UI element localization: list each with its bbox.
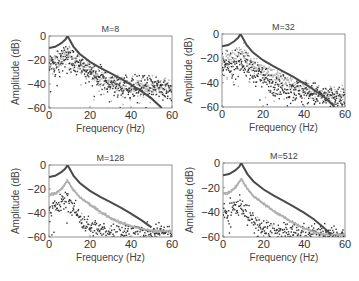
y-tick-label: −20 xyxy=(201,182,220,194)
y-tick-label: 0 xyxy=(40,159,46,171)
axes-box xyxy=(49,165,172,237)
y-axis-label: Amplitude (dB) xyxy=(184,167,195,233)
subplot-title: M=8 xyxy=(102,24,120,34)
x-tick-label: 0 xyxy=(220,238,226,250)
x-tick-label: 0 xyxy=(46,238,52,250)
y-tick-label: −20 xyxy=(27,183,46,195)
y-tick-label: −40 xyxy=(201,206,220,218)
x-tick-label: 60 xyxy=(339,108,351,120)
x-tick-label: 40 xyxy=(125,238,137,250)
x-tick-label: 20 xyxy=(257,108,269,120)
subplot-panel: 02040600−20−40−60M=128Frequency (Hz)Ampl… xyxy=(10,153,178,263)
x-tick-label: 40 xyxy=(125,109,137,121)
subplot-title: M=128 xyxy=(97,153,125,163)
x-tick-label: 20 xyxy=(84,238,96,250)
x-tick-label: 60 xyxy=(166,109,178,121)
subplot-panel: 02040600−20−40−60M=8Frequency (Hz)Amplit… xyxy=(10,24,178,134)
y-tick-label: −40 xyxy=(27,207,46,219)
y-tick-label: 0 xyxy=(214,157,220,169)
y-tick-label: −60 xyxy=(27,231,46,243)
x-axis-label: Frequency (Hz) xyxy=(249,122,318,133)
y-axis-label: Amplitude (dB) xyxy=(183,37,194,103)
x-tick-label: 60 xyxy=(166,238,178,250)
subplot-title: M=512 xyxy=(270,151,298,161)
y-tick-label: 0 xyxy=(40,30,46,42)
y-tick-label: −60 xyxy=(27,102,46,114)
x-tick-label: 40 xyxy=(298,108,310,120)
y-tick-label: −20 xyxy=(200,52,219,64)
x-tick-label: 20 xyxy=(84,109,96,121)
x-axis-label: Frequency (Hz) xyxy=(250,252,319,263)
y-tick-label: −40 xyxy=(27,78,46,90)
y-tick-label: 0 xyxy=(213,28,219,40)
y-tick-label: −40 xyxy=(200,77,219,89)
y-tick-label: −60 xyxy=(200,101,219,113)
subplot-panel: 02040600−20−40−60M=32Frequency (Hz)Ampli… xyxy=(183,22,351,133)
theoretical-curve xyxy=(49,165,152,227)
x-tick-label: 40 xyxy=(298,238,310,250)
x-tick-label: 20 xyxy=(258,238,270,250)
x-tick-label: 0 xyxy=(219,108,225,120)
x-tick-label: 60 xyxy=(339,238,351,250)
axes-box xyxy=(49,36,172,108)
axes-box xyxy=(223,163,345,237)
subplot-title: M=32 xyxy=(272,22,295,32)
chart-canvas: 02040600−20−40−60M=8Frequency (Hz)Amplit… xyxy=(0,0,359,281)
x-axis-label: Frequency (Hz) xyxy=(76,123,145,134)
y-tick-label: −20 xyxy=(27,54,46,66)
x-tick-label: 0 xyxy=(46,109,52,121)
x-axis-label: Frequency (Hz) xyxy=(76,252,145,263)
y-axis-label: Amplitude (dB) xyxy=(10,168,21,234)
y-tick-label: −60 xyxy=(201,231,220,243)
y-axis-label: Amplitude (dB) xyxy=(10,39,21,105)
subplot-panel: 02040600−20−40−60M=512Frequency (Hz)Ampl… xyxy=(184,151,351,263)
